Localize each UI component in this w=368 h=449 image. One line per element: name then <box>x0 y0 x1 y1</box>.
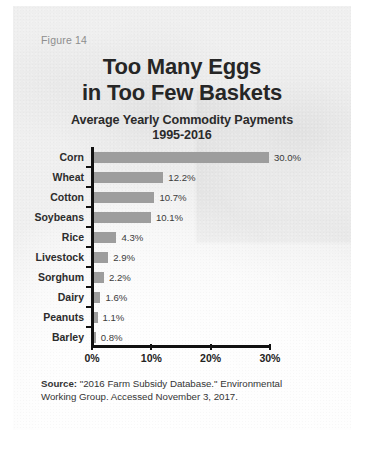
bar-category-label: Soybeans <box>13 211 91 223</box>
y-axis-tick <box>86 166 92 168</box>
x-axis-tick-label: 0% <box>84 352 99 364</box>
bar-rows: Corn30.0%Wheat12.2%Cotton10.7%Soybeans10… <box>13 147 351 347</box>
bar-value-label: 2.9% <box>113 252 135 263</box>
bar <box>91 152 269 163</box>
bar-row: Barley0.8% <box>13 327 351 347</box>
x-axis-tick-label: 10% <box>141 352 162 364</box>
bar-value-label: 10.1% <box>156 212 183 223</box>
bar-track: 1.1% <box>91 307 351 327</box>
x-axis-tick-label: 20% <box>200 352 221 364</box>
figure-card: Figure 14 Too Many Eggs in Too Few Baske… <box>13 6 351 430</box>
y-axis-tick <box>86 206 92 208</box>
bar-row: Dairy1.6% <box>13 287 351 307</box>
bar <box>91 212 151 223</box>
chart-subtitle-line-2: 1995-2016 <box>13 128 351 143</box>
bar-value-label: 0.8% <box>101 332 123 343</box>
bar-category-label: Sorghum <box>13 271 91 283</box>
y-axis-tick <box>86 266 92 268</box>
source-label: Source: <box>41 378 77 389</box>
bar-category-label: Corn <box>13 151 91 163</box>
bar-value-label: 1.1% <box>103 312 125 323</box>
bar-row: Peanuts1.1% <box>13 307 351 327</box>
chart-subtitle-line-1: Average Yearly Commodity Payments <box>13 113 351 128</box>
y-axis-tick <box>86 306 92 308</box>
bar-row: Soybeans10.1% <box>13 207 351 227</box>
bar-category-label: Dairy <box>13 291 91 303</box>
bar-row: Wheat12.2% <box>13 167 351 187</box>
bar-category-label: Wheat <box>13 171 91 183</box>
chart-title-line-1: Too Many Eggs <box>13 54 351 80</box>
bar <box>91 232 116 243</box>
bar-category-label: Barley <box>13 331 91 343</box>
x-axis-tick <box>269 344 271 350</box>
bar-value-label: 10.7% <box>159 192 186 203</box>
bar-track: 2.9% <box>91 247 351 267</box>
y-axis-tick <box>86 286 92 288</box>
bar-track: 2.2% <box>91 267 351 287</box>
bar-row: Corn30.0% <box>13 147 351 167</box>
bar-row: Livestock2.9% <box>13 247 351 267</box>
bar-value-label: 1.6% <box>105 292 127 303</box>
bar-row: Sorghum2.2% <box>13 267 351 287</box>
chart-title-line-2: in Too Few Baskets <box>13 80 351 106</box>
bar-value-label: 12.2% <box>168 172 195 183</box>
y-axis-tick <box>86 226 92 228</box>
x-axis-tick <box>210 344 212 350</box>
bar-track: 0.8% <box>91 327 351 347</box>
bar-value-label: 4.3% <box>121 232 143 243</box>
y-axis-tick <box>86 246 92 248</box>
bar <box>91 192 154 203</box>
bar-track: 4.3% <box>91 227 351 247</box>
bar-category-label: Peanuts <box>13 311 91 323</box>
bar-value-label: 2.2% <box>109 272 131 283</box>
x-axis-tick <box>150 344 152 350</box>
bar-row: Cotton10.7% <box>13 187 351 207</box>
source-text-line-2: Working Group. Accessed November 3, 2017… <box>41 391 238 402</box>
title-block: Too Many Eggs in Too Few Baskets Average… <box>13 54 351 143</box>
bar-track: 10.7% <box>91 187 351 207</box>
bar-track: 12.2% <box>91 167 351 187</box>
x-axis-tick-label: 30% <box>259 352 280 364</box>
y-axis-tick <box>86 326 92 328</box>
source-note: Source: "2016 Farm Subsidy Database." En… <box>41 378 329 403</box>
x-axis-tick <box>91 344 93 350</box>
bar-category-label: Livestock <box>13 251 91 263</box>
bar-track: 30.0% <box>91 147 351 167</box>
bar-chart: Corn30.0%Wheat12.2%Cotton10.7%Soybeans10… <box>13 147 351 362</box>
bar <box>91 172 163 183</box>
bar-track: 10.1% <box>91 207 351 227</box>
x-axis-line <box>91 345 271 348</box>
source-text-line-1: "2016 Farm Subsidy Database." Environmen… <box>77 378 282 389</box>
bar-category-label: Cotton <box>13 191 91 203</box>
y-axis-tick <box>86 186 92 188</box>
bar-track: 1.6% <box>91 287 351 307</box>
bar-category-label: Rice <box>13 231 91 243</box>
bar-row: Rice4.3% <box>13 227 351 247</box>
bar-value-label: 30.0% <box>274 152 301 163</box>
figure-number-label: Figure 14 <box>41 34 87 46</box>
